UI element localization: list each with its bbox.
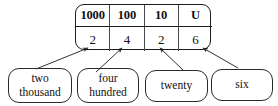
header-cell-tens: 10: [145, 5, 179, 26]
header-cell-thousands: 1000: [76, 5, 110, 26]
digit-cell-thousands: 2: [76, 27, 110, 51]
place-value-table: 1000 100 10 U 2 4 2 6: [75, 4, 211, 50]
callout-hundreds-line2: hundred: [89, 86, 127, 99]
digit-cell-hundreds: 4: [110, 27, 144, 51]
callout-units: six: [211, 69, 273, 101]
arrow-units: [203, 48, 238, 68]
arrow-tens: [160, 48, 183, 70]
callout-thousands-line1: two: [31, 72, 48, 85]
table-header-row: 1000 100 10 U: [76, 5, 212, 27]
header-cell-hundreds: 100: [110, 5, 144, 26]
callout-hundreds: four hundred: [77, 68, 139, 103]
callout-thousands: two thousand: [8, 68, 72, 103]
arrow-thousands: [36, 48, 88, 69]
callout-tens-line1: twenty: [161, 79, 192, 92]
callout-tens: twenty: [145, 70, 208, 102]
digit-cell-tens: 2: [145, 27, 179, 51]
digit-cell-units: 6: [179, 27, 212, 51]
callout-hundreds-line1: four: [98, 72, 117, 85]
callout-units-line1: six: [235, 78, 248, 91]
header-cell-units: U: [179, 5, 212, 26]
place-value-figure: 1000 100 10 U 2 4 2 6 two thousand four …: [0, 0, 278, 106]
table-digit-row: 2 4 2 6: [76, 27, 212, 51]
callout-thousands-line2: thousand: [19, 86, 61, 99]
